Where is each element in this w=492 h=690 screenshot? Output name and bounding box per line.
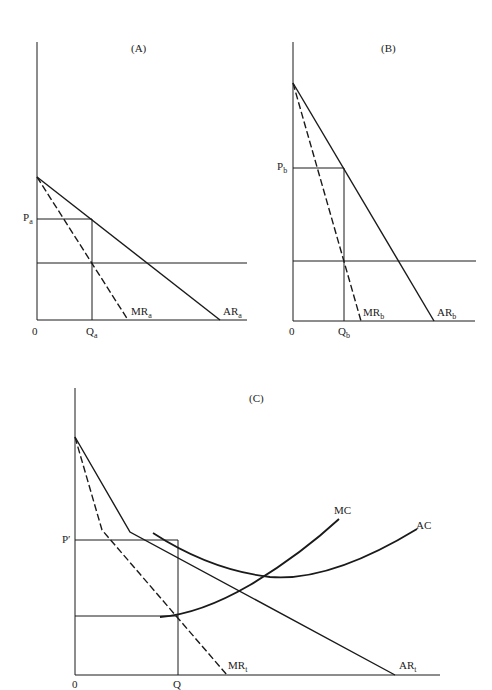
panel-a-mr-label: MRa — [131, 306, 152, 321]
panel-b-qty-label: Qb — [338, 326, 350, 341]
panel-c-mc-curve — [160, 519, 339, 617]
panel-a-origin: 0 — [32, 326, 38, 337]
panel-b-ar-curve — [293, 83, 434, 321]
panel-c-graph — [75, 388, 440, 675]
panel-c-price-label: P′ — [62, 534, 71, 545]
panel-b-price-label: Pb — [277, 161, 287, 176]
panel-c-mc-label: MC — [334, 505, 351, 516]
panel-c-mr-curve — [75, 437, 227, 675]
panel-b-title: (B) — [381, 43, 396, 54]
panel-b-graph — [293, 42, 476, 321]
panel-a-mr-curve — [37, 177, 128, 320]
panel-a-qty-label: Qa — [86, 326, 98, 341]
panel-b-ar-label: ARb — [437, 307, 456, 322]
panel-c-origin: 0 — [72, 679, 78, 690]
panel-c-ac-label: AC — [416, 520, 431, 531]
panel-c-title: (C) — [249, 393, 264, 404]
panel-a-price-label: Pa — [23, 212, 33, 227]
panel-c-mr-label: MRt — [228, 660, 247, 675]
panel-b-mr-label: MRb — [363, 307, 384, 322]
panel-c-ar-label: ARt — [399, 660, 417, 675]
panel-a-ar-curve — [37, 177, 220, 320]
panel-a-ar-label: ARa — [223, 306, 242, 321]
panel-a-title: (A) — [131, 43, 146, 54]
panel-b-mr-curve — [293, 83, 361, 321]
panel-c-ar-curve — [75, 437, 395, 675]
panel-b-origin: 0 — [289, 326, 295, 337]
panel-c-qty-label: Q — [173, 679, 181, 690]
panel-c-ac-curve — [153, 529, 417, 577]
panel-a-graph — [37, 42, 247, 320]
